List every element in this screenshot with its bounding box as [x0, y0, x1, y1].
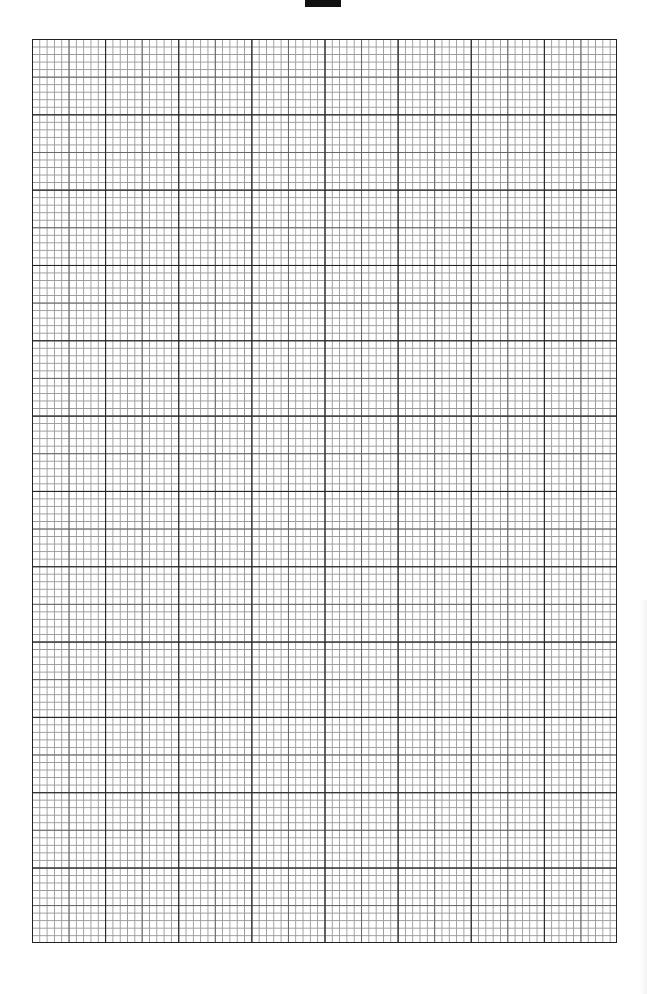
page-edge-shadow: [640, 600, 647, 994]
redaction-block: [305, 0, 341, 7]
graph-paper-grid: [32, 39, 617, 943]
